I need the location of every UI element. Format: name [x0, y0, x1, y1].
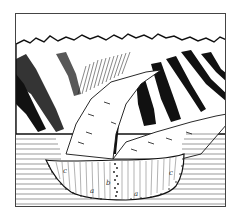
label-right-c: c: [169, 170, 173, 177]
label-left-c: c: [63, 168, 67, 175]
label-left-a: a: [90, 188, 94, 195]
glacier-illustration: [16, 14, 226, 207]
illustration-frame: c b a a c: [15, 13, 226, 207]
label-right-a: a: [134, 191, 138, 198]
label-center-b: b: [106, 180, 110, 187]
